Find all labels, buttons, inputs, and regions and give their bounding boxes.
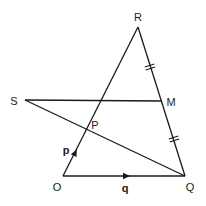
vector-q-arrow-icon [123, 173, 130, 179]
point-label-Q: Q [186, 182, 195, 193]
point-label-M: M [166, 97, 175, 108]
geometry-diagram: R S M P O Q p q [0, 0, 206, 206]
vector-p-arrow-icon [71, 148, 80, 157]
segment-SQ [25, 100, 185, 176]
vector-label-q: q [122, 183, 129, 194]
segment-SM [25, 100, 162, 101]
point-label-O: O [53, 182, 62, 193]
vector-label-p: p [63, 145, 70, 156]
point-label-S: S [10, 96, 17, 107]
point-label-R: R [134, 12, 142, 23]
point-label-P: P [91, 120, 98, 131]
